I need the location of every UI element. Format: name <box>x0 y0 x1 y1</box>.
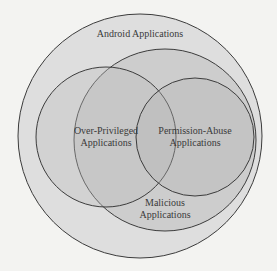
malicious-label-line1: Malicious <box>145 197 185 208</box>
venn-diagram: Android Applications Over-Privileged App… <box>0 0 277 271</box>
permission-abuse-label-line2: Applications <box>169 137 220 148</box>
android-applications-label: Android Applications <box>97 28 183 39</box>
over-privileged-label-line1: Over-Privileged <box>74 125 138 136</box>
permission-abuse-label-line1: Permission-Abuse <box>158 125 232 136</box>
over-privileged-label-line2: Applications <box>80 137 131 148</box>
malicious-label-line2: Applications <box>139 209 190 220</box>
